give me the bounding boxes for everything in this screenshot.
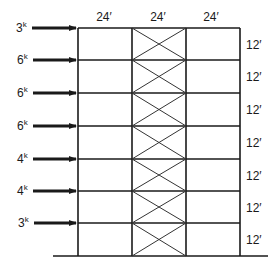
bay-width-labels: 24′ 24′ 24′: [96, 10, 219, 24]
svg-text:24′: 24′: [150, 10, 166, 24]
svg-text:6k: 6k: [17, 85, 29, 100]
svg-text:6k: 6k: [17, 118, 29, 133]
beams: [78, 28, 240, 223]
story-height-labels: 12′ 12′ 12′ 12′ 12′ 12′ 12′: [246, 38, 262, 247]
svg-text:12′: 12′: [246, 233, 262, 247]
load-labels: 3k 6k 6k 6k 4k 4k 3k: [16, 20, 30, 230]
svg-text:12′: 12′: [246, 169, 262, 183]
svg-text:4k: 4k: [17, 151, 29, 166]
x-bracing: [132, 28, 186, 256]
svg-text:4k: 4k: [17, 183, 29, 198]
svg-text:3k: 3k: [16, 20, 28, 35]
svg-text:12′: 12′: [246, 70, 262, 84]
load-arrows: [32, 28, 76, 223]
svg-text:24′: 24′: [203, 10, 219, 24]
svg-text:3k: 3k: [18, 215, 30, 230]
svg-text:6k: 6k: [17, 52, 29, 67]
svg-text:12′: 12′: [246, 103, 262, 117]
svg-text:24′: 24′: [96, 10, 112, 24]
braced-frame-diagram: 3k 6k 6k 6k 4k 4k 3k 24′ 24′ 24′ 12′ 12′…: [0, 0, 280, 268]
svg-text:12′: 12′: [246, 38, 262, 52]
svg-text:12′: 12′: [246, 136, 262, 150]
svg-text:12′: 12′: [246, 201, 262, 215]
